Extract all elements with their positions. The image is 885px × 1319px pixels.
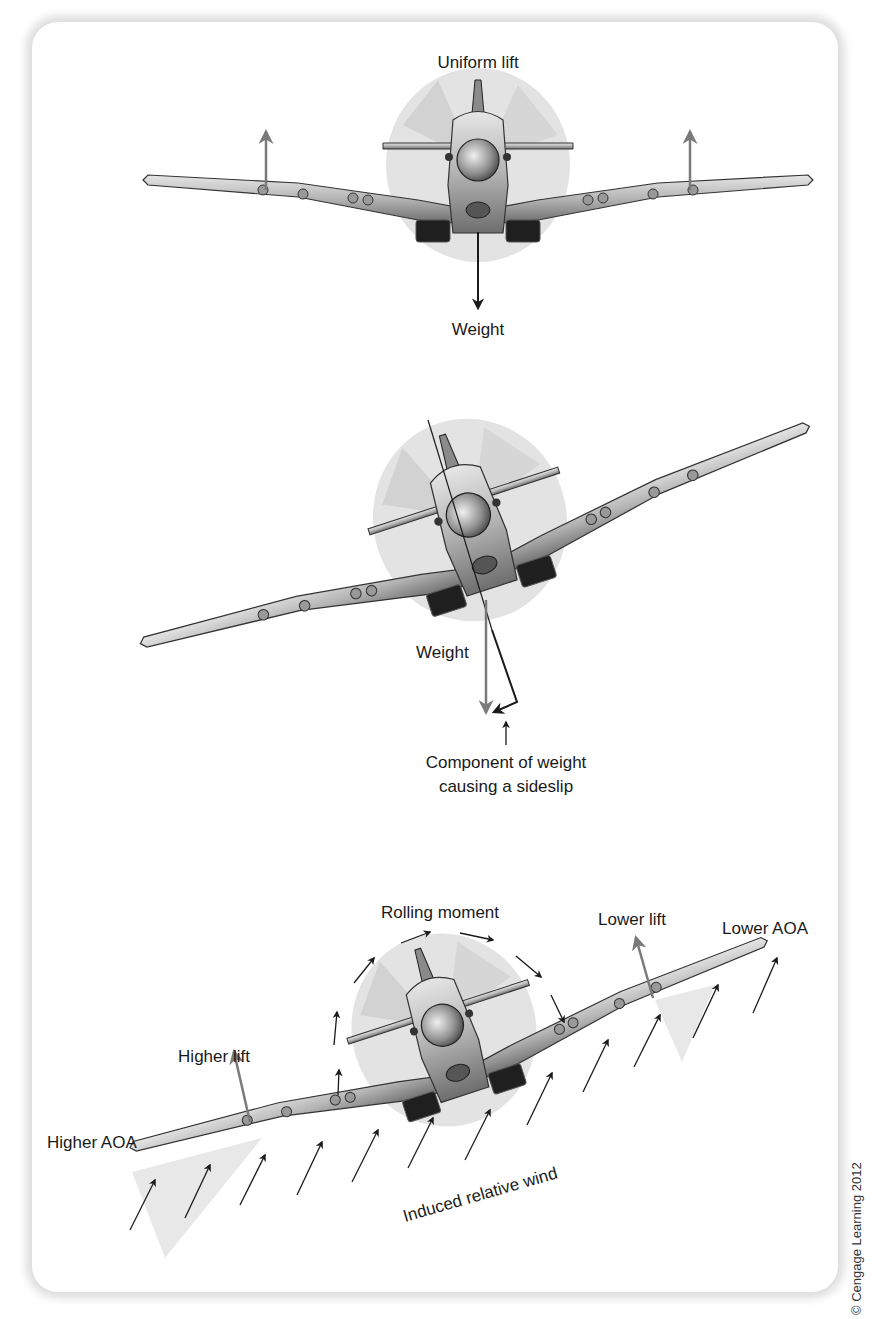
aoa-wedge-high <box>132 1138 262 1258</box>
label-uniform-lift: Uniform lift <box>437 53 519 72</box>
label-component-line1: Component of weight <box>426 753 587 772</box>
aoa-wedge-low <box>655 985 715 1062</box>
label-lower-aoa: Lower AOA <box>722 919 809 938</box>
label-induced-wind: Induced relative wind <box>401 1164 560 1226</box>
panel-level-flight: Uniform lift Weight <box>143 53 813 339</box>
sideslip-component-arrow <box>492 630 517 712</box>
label-lower-lift: Lower lift <box>598 910 666 929</box>
dihedral-diagram: Uniform lift Weight Weight Component of … <box>0 0 885 1319</box>
label-rolling-moment: Rolling moment <box>381 903 499 922</box>
label-component-line2: causing a sideslip <box>439 777 573 796</box>
label-higher-aoa: Higher AOA <box>47 1133 137 1152</box>
panel-banked-sideslip: Weight Component of weight causing a sid… <box>104 314 836 796</box>
label-weight-banked: Weight <box>416 643 469 662</box>
copyright-notice: © Cengage Learning 2012 <box>849 1162 864 1315</box>
label-weight-level: Weight <box>452 320 505 339</box>
panel-rolling-moment: Rolling moment Lower lift Lower AOA High… <box>47 834 809 1258</box>
label-higher-lift: Higher lift <box>178 1047 250 1066</box>
airplane-banked <box>104 314 836 725</box>
